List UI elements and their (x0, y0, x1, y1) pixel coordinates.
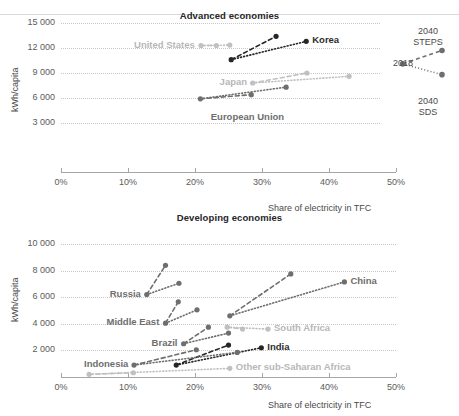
data-point (227, 313, 232, 318)
data-point (194, 347, 199, 352)
series-line (230, 274, 291, 316)
data-point (144, 292, 149, 297)
plot-area-advanced: 3 0006 0009 00012 00015 0000%10%20%30%40… (0, 0, 459, 200)
legend-base-label: 2018 (388, 58, 418, 69)
data-point (259, 345, 264, 350)
series-label-russia: Russia (110, 288, 141, 299)
data-point (288, 271, 293, 276)
series-label-japan: Japan (220, 76, 247, 87)
legend-steps-label: 2040 STEPS (400, 26, 456, 48)
data-point (342, 279, 347, 284)
data-point (225, 325, 230, 330)
x-axis-title-developing: Share of electricity in TFC (268, 400, 371, 410)
data-point (87, 372, 92, 377)
series-label-south-africa: South Africa (274, 322, 330, 333)
data-point (227, 366, 232, 371)
plot-area-developing: 2 0004 0006 0008 00010 0000%10%20%30%40%… (0, 200, 459, 416)
series-label-middle-east: Middle East (107, 316, 160, 327)
data-point (131, 362, 136, 367)
data-point (226, 342, 231, 347)
series-label-other-sub-saharan-africa: Other sub-Saharan Africa (236, 361, 351, 372)
legend-point-steps (439, 48, 445, 54)
data-point (226, 331, 231, 336)
series-label-united-states: United States (134, 39, 195, 50)
series-label-european-union: European Union (211, 111, 284, 122)
series-line (147, 265, 166, 294)
chart-panel-advanced: Advanced economies kWh/capita 3 0006 000… (0, 0, 459, 200)
data-point (265, 327, 270, 332)
data-point (176, 281, 181, 286)
data-point (163, 263, 168, 268)
series-line (227, 327, 268, 329)
series-line (147, 283, 179, 294)
series-label-india: India (267, 341, 289, 352)
data-point (131, 370, 136, 375)
x-axis-title-advanced: Share of electricity in TFC (268, 203, 371, 213)
legend-marker-layer (0, 0, 459, 200)
series-label-indonesia: Indonesia (84, 358, 128, 369)
chart-panel-developing: Developing economies kWh/capita 2 0004 0… (0, 200, 459, 416)
figure-root: Advanced economies kWh/capita 3 0006 000… (0, 0, 459, 416)
legend-sds-label: 2040 SDS (400, 96, 456, 118)
data-point (235, 350, 240, 355)
data-point (163, 321, 168, 326)
data-point (176, 299, 181, 304)
legend-point-sds (439, 72, 445, 78)
series-label-brazil: Brazil (152, 337, 178, 348)
data-point (206, 325, 211, 330)
series-label-korea: Korea (312, 34, 339, 45)
data-point (194, 307, 199, 312)
series-label-china: China (350, 275, 376, 286)
data-point (181, 341, 186, 346)
series-line (230, 282, 345, 316)
data-point (240, 327, 245, 332)
series-layer (0, 200, 459, 416)
data-point (174, 362, 179, 367)
